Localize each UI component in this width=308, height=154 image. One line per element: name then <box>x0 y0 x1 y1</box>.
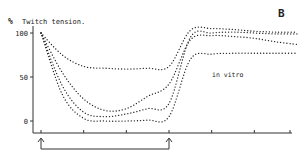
start-arrow-icon <box>38 138 44 149</box>
in-vitro-annotation: in vitro <box>212 71 243 79</box>
twitch-tension-chart: 050100 % Twitch tension. B in vitro <box>0 0 308 154</box>
y-axis-title: Twitch tension. <box>22 18 85 26</box>
stimulus-markers <box>38 138 172 149</box>
series-line-curve-2 <box>41 33 297 111</box>
panel-label: B <box>278 7 285 20</box>
y-unit-label: % <box>8 17 13 26</box>
y-ticks: 050100 <box>15 30 33 126</box>
y-tick-label: 0 <box>24 118 28 126</box>
series-line-curve-1 <box>41 27 297 70</box>
y-tick-label: 100 <box>15 30 28 38</box>
series-group <box>41 27 297 122</box>
series-line-curve-3 <box>41 31 297 117</box>
y-tick-label: 50 <box>20 74 28 82</box>
series-line-curve-4 <box>41 33 297 122</box>
end-arrow-icon <box>166 138 172 149</box>
